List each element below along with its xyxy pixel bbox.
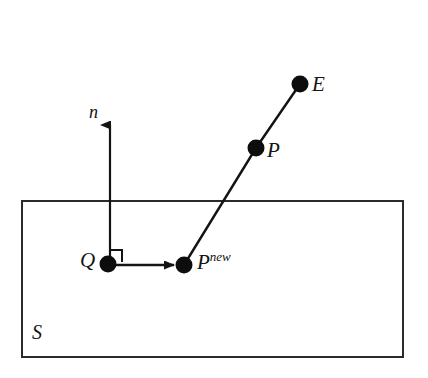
label-point-p: P xyxy=(267,140,280,161)
geometry-diagram: E P n Q Pnew S xyxy=(0,0,428,378)
point-q xyxy=(100,256,117,273)
label-point-p-new-base: P xyxy=(197,250,210,274)
segment-p-to-pnew xyxy=(184,148,256,265)
label-surface-s: S xyxy=(32,322,42,342)
label-normal-vector-n: n xyxy=(89,103,98,121)
point-e xyxy=(292,76,309,93)
surface-rectangle xyxy=(22,201,403,357)
point-p-new xyxy=(176,257,193,274)
label-point-q: Q xyxy=(80,250,95,271)
label-point-p-new-superscript: new xyxy=(210,249,231,264)
diagram-canvas xyxy=(0,0,428,378)
label-point-p-new: Pnew xyxy=(197,252,231,273)
label-point-e: E xyxy=(312,74,325,95)
point-p xyxy=(248,140,265,157)
